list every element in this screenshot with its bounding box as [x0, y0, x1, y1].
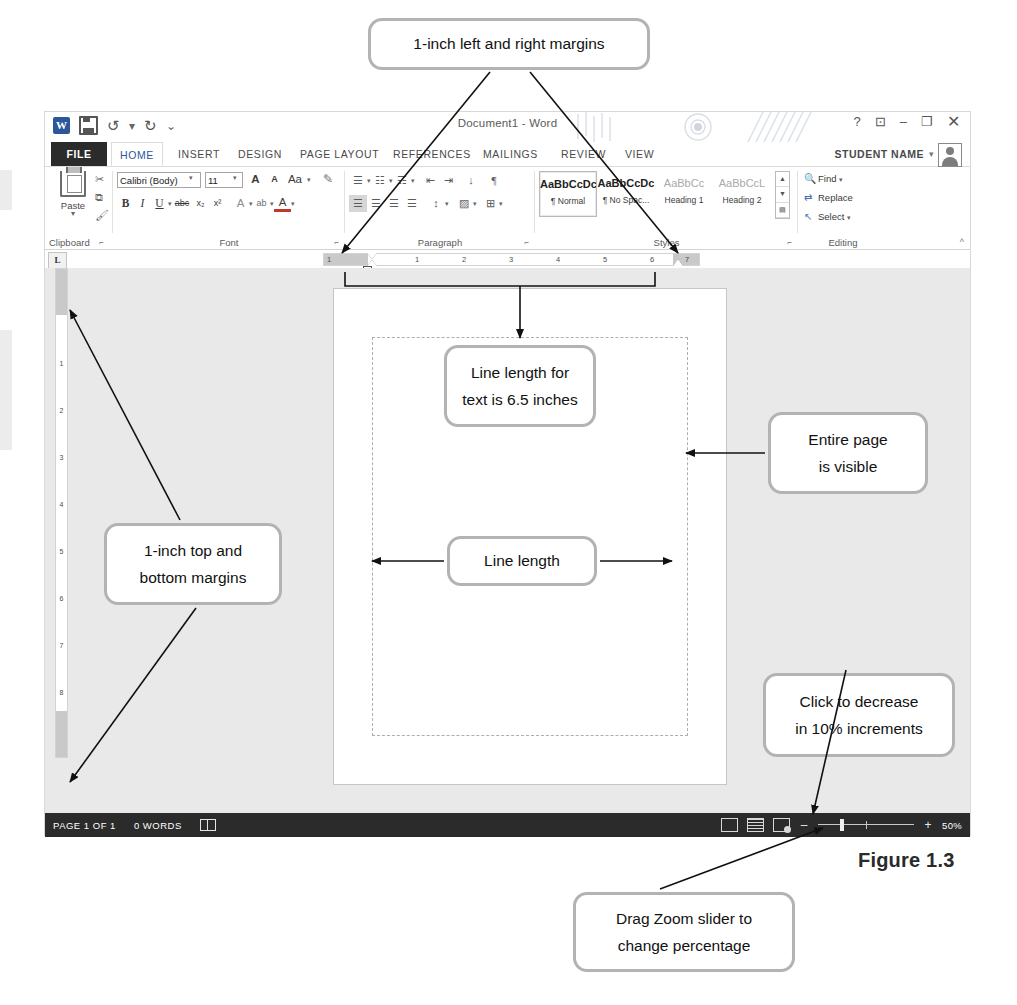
zoom-percent[interactable]: 50%: [942, 820, 962, 831]
zoom-out-button[interactable]: –: [799, 819, 809, 831]
web-layout-icon[interactable]: [773, 818, 790, 832]
select-button[interactable]: ↖Select ▾: [804, 211, 851, 222]
callout-line: Line length for: [471, 359, 569, 386]
page-indicator[interactable]: PAGE 1 OF 1: [53, 820, 116, 831]
styles-scroll-down-icon[interactable]: ▼: [776, 187, 789, 202]
align-center-icon[interactable]: ☰: [367, 195, 385, 212]
tab-page-layout[interactable]: PAGE LAYOUT: [292, 142, 387, 166]
tab-references[interactable]: REFERENCES: [385, 142, 479, 166]
zoom-slider[interactable]: [818, 819, 914, 831]
tab-mailings[interactable]: MAILINGS: [475, 142, 546, 166]
borders-icon[interactable]: ⊞: [481, 195, 499, 212]
show-formatting-marks-icon[interactable]: ¶: [485, 172, 503, 189]
superscript-button[interactable]: x²: [209, 195, 226, 212]
styles-scroll-up-icon[interactable]: ▲: [776, 172, 789, 187]
minimize-icon[interactable]: –: [900, 114, 907, 130]
font-color-caret-icon[interactable]: ▾: [291, 200, 295, 208]
line-spacing-caret-icon[interactable]: ▾: [445, 200, 449, 208]
change-case-icon[interactable]: Aa: [285, 171, 305, 188]
bold-button[interactable]: B: [117, 195, 134, 212]
select-caret-icon[interactable]: ▾: [847, 214, 851, 221]
clear-formatting-icon[interactable]: ✎: [319, 171, 336, 188]
tab-design[interactable]: DESIGN: [230, 142, 290, 166]
horizontal-ruler[interactable]: 1 1 2 3 4 5 6 7: [323, 253, 700, 266]
zoom-midpoint-tick: [866, 821, 867, 829]
find-caret-icon[interactable]: ▾: [839, 176, 843, 183]
grow-font-icon[interactable]: A: [247, 171, 264, 188]
ruler-number: 7: [56, 642, 67, 649]
proofing-icon[interactable]: [200, 819, 216, 831]
format-painter-icon[interactable]: 🖌: [95, 209, 109, 222]
numbering-icon[interactable]: ☷: [371, 172, 389, 189]
right-indent-marker[interactable]: [673, 259, 683, 266]
tab-review[interactable]: REVIEW: [553, 142, 614, 166]
multilevel-caret-icon[interactable]: ▾: [411, 177, 415, 185]
tab-selector-button[interactable]: L: [48, 252, 67, 269]
style-item-no-spacing[interactable]: AaBbCcDc ¶ No Spac...: [597, 171, 655, 217]
restore-icon[interactable]: ❐: [921, 114, 933, 130]
account-name[interactable]: STUDENT NAME: [835, 142, 924, 166]
tab-view[interactable]: VIEW: [617, 142, 662, 166]
paste-button[interactable]: Paste ▾: [55, 171, 91, 217]
align-left-icon[interactable]: ☰: [349, 195, 367, 212]
tab-file[interactable]: FILE: [51, 142, 107, 166]
style-item-normal[interactable]: AaBbCcDc ¶ Normal: [539, 171, 597, 217]
vertical-ruler[interactable]: 1 2 3 4 5 6 7 8: [55, 268, 68, 758]
strikethrough-button[interactable]: abc: [172, 195, 192, 212]
justify-icon[interactable]: ☰: [403, 195, 421, 212]
text-effects-icon[interactable]: A: [232, 195, 249, 212]
window-controls[interactable]: ? ⊡ – ❐ ✕: [854, 114, 960, 130]
replace-button[interactable]: ⇄Replace: [804, 192, 853, 203]
avatar[interactable]: [938, 143, 962, 167]
zoom-slider-thumb[interactable]: [840, 819, 844, 831]
print-layout-icon[interactable]: [747, 818, 764, 832]
styles-dialog-launcher[interactable]: ⌐: [787, 238, 792, 247]
highlight-color-icon[interactable]: ab: [253, 195, 270, 212]
italic-button[interactable]: I: [134, 195, 151, 212]
paragraph-dialog-launcher[interactable]: ⌐: [524, 238, 529, 247]
change-case-caret-icon[interactable]: ▾: [307, 176, 311, 184]
bullets-icon[interactable]: ☰: [349, 172, 367, 189]
clipboard-dialog-launcher[interactable]: ⌐: [99, 238, 104, 247]
font-format-row: B I U ▾ abc x₂ x² A ▾ ab ▾ A ▾: [117, 195, 295, 212]
font-dialog-launcher[interactable]: ⌐: [334, 238, 339, 247]
tab-insert[interactable]: INSERT: [170, 142, 228, 166]
borders-caret-icon[interactable]: ▾: [499, 200, 503, 208]
ruler-number: 2: [462, 254, 466, 265]
find-icon: 🔍: [804, 173, 818, 184]
multilevel-list-icon[interactable]: ☶: [393, 172, 411, 189]
decrease-indent-icon[interactable]: ⇤: [421, 172, 439, 189]
underline-button[interactable]: U: [151, 195, 168, 212]
copy-icon[interactable]: ⧉: [95, 191, 103, 204]
align-right-icon[interactable]: ☰: [385, 195, 403, 212]
line-spacing-icon[interactable]: ↕: [427, 195, 445, 212]
callout-line: 1-inch left and right margins: [413, 30, 604, 57]
collapse-ribbon-icon[interactable]: ^: [960, 237, 964, 247]
word-count[interactable]: 0 WORDS: [134, 820, 182, 831]
styles-gallery[interactable]: AaBbCcDc ¶ Normal AaBbCcDc ¶ No Spac... …: [539, 171, 773, 217]
find-button[interactable]: 🔍Find ▾: [804, 173, 843, 184]
subscript-button[interactable]: x₂: [192, 195, 209, 212]
style-item-heading-2[interactable]: AaBbCcL Heading 2: [713, 171, 771, 217]
read-mode-icon[interactable]: [721, 818, 738, 832]
styles-more-icon[interactable]: ▤: [776, 203, 789, 218]
increase-indent-icon[interactable]: ⇥: [439, 172, 457, 189]
account-caret-icon[interactable]: ▾: [929, 142, 934, 166]
close-icon[interactable]: ✕: [947, 114, 960, 130]
zoom-in-button[interactable]: +: [923, 819, 933, 831]
style-item-heading-1[interactable]: AaBbCc Heading 1: [655, 171, 713, 217]
first-line-indent-marker[interactable]: [367, 253, 377, 259]
paste-caret-icon[interactable]: ▾: [55, 211, 91, 217]
font-color-icon[interactable]: A: [274, 195, 291, 212]
shrink-font-icon[interactable]: A: [266, 171, 283, 188]
shading-icon[interactable]: ▨: [455, 195, 473, 212]
shading-caret-icon[interactable]: ▾: [473, 200, 477, 208]
styles-scroll-buttons[interactable]: ▲ ▼ ▤: [775, 171, 790, 219]
sort-icon[interactable]: ↓: [462, 172, 480, 189]
ruler-number: 4: [56, 501, 67, 508]
tab-home[interactable]: HOME: [111, 142, 163, 166]
ribbon: Paste ▾ ✂ ⧉ 🖌 Clipboard ⌐ Calibri (Body)…: [45, 167, 970, 250]
cut-icon[interactable]: ✂: [95, 173, 104, 186]
ribbon-display-options-icon[interactable]: ⊡: [875, 114, 886, 130]
help-icon[interactable]: ?: [854, 114, 861, 130]
